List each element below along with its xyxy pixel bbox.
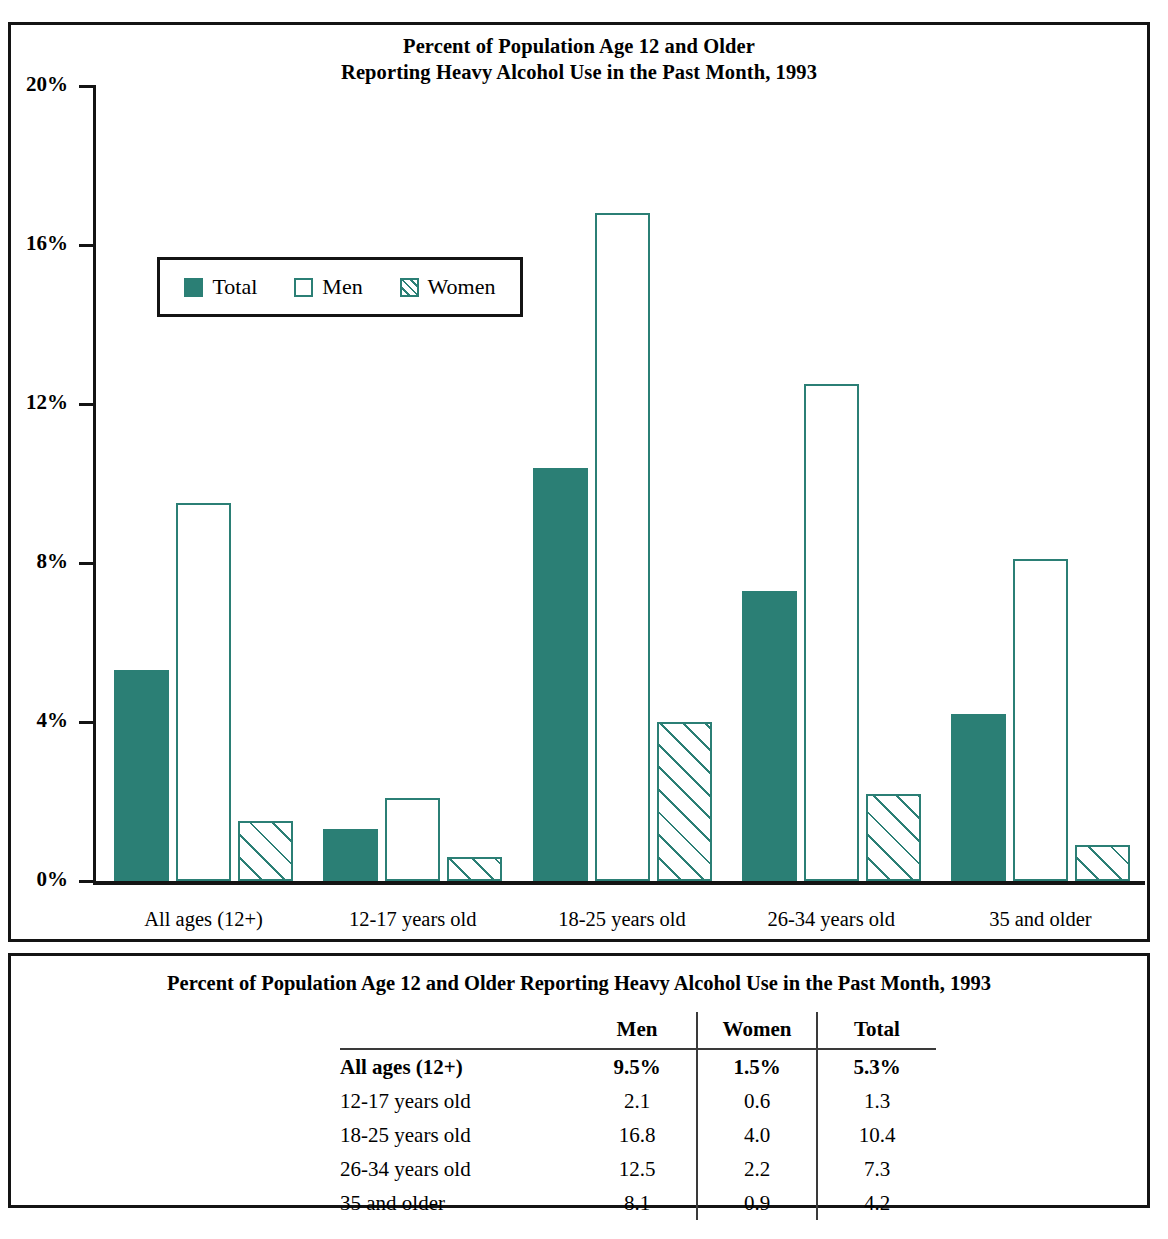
table-title: Percent of Population Age 12 and Older R…	[11, 972, 1147, 995]
table-cell-men: 16.8	[578, 1118, 697, 1152]
table-cell-label: 12-17 years old	[340, 1084, 578, 1118]
category-label-3: 26-34 years old	[727, 908, 936, 931]
y-tick-16%: 16%	[79, 244, 96, 247]
bar-men-4	[1013, 559, 1068, 881]
table-cell-women: 1.5%	[697, 1049, 817, 1084]
bar-men-0	[176, 503, 231, 881]
table-panel: Percent of Population Age 12 and Older R…	[8, 953, 1150, 1208]
category-label-0: All ages (12+)	[99, 908, 308, 931]
table-cell-men: 2.1	[578, 1084, 697, 1118]
table-cell-label: 35 and older	[340, 1186, 578, 1220]
bar-total-1	[323, 829, 378, 881]
table-cell-women: 0.6	[697, 1084, 817, 1118]
table-row: 35 and older8.10.94.2	[340, 1186, 936, 1220]
bar-total-4	[951, 714, 1006, 881]
table-cell-total: 1.3	[817, 1084, 936, 1118]
bar-men-1	[385, 798, 440, 881]
x-axis-line	[93, 881, 1145, 885]
table-row: 18-25 years old16.84.010.4	[340, 1118, 936, 1152]
table-header-row: Men Women Total	[340, 1012, 936, 1049]
bar-men-3	[804, 384, 859, 881]
y-tick-label-8%: 8%	[37, 549, 69, 574]
table-row: 26-34 years old12.52.27.3	[340, 1152, 936, 1186]
chart-page: Percent of Population Age 12 and Older R…	[0, 0, 1168, 1239]
y-tick-12%: 12%	[79, 403, 96, 406]
bar-women-3	[866, 794, 921, 881]
table-header-rowlabel	[340, 1012, 578, 1049]
table-cell-men: 9.5%	[578, 1049, 697, 1084]
table-header: Men Women Total	[340, 1012, 936, 1049]
table-cell-label: All ages (12+)	[340, 1049, 578, 1084]
chart-title-line-2: Reporting Heavy Alcohol Use in the Past …	[11, 59, 1147, 85]
bar-women-2	[657, 722, 712, 881]
chart-title-line-1: Percent of Population Age 12 and Older	[11, 33, 1147, 59]
table-cell-women: 4.0	[697, 1118, 817, 1152]
table-cell-women: 2.2	[697, 1152, 817, 1186]
bar-total-2	[533, 468, 588, 881]
chart-title: Percent of Population Age 12 and Older R…	[11, 33, 1147, 85]
table-cell-total: 4.2	[817, 1186, 936, 1220]
y-axis-line	[93, 86, 96, 881]
table-header-men: Men	[578, 1012, 697, 1049]
bar-total-3	[742, 591, 797, 881]
table-cell-label: 26-34 years old	[340, 1152, 578, 1186]
y-tick-label-16%: 16%	[26, 231, 68, 256]
y-tick-20%: 20%	[79, 85, 96, 88]
table-cell-men: 12.5	[578, 1152, 697, 1186]
bar-women-0	[238, 821, 293, 881]
y-tick-4%: 4%	[79, 721, 96, 724]
y-tick-0%: 0%	[79, 880, 96, 883]
table-cell-total: 7.3	[817, 1152, 936, 1186]
category-label-2: 18-25 years old	[517, 908, 726, 931]
y-tick-label-12%: 12%	[26, 390, 68, 415]
y-tick-label-20%: 20%	[26, 72, 68, 97]
bar-women-4	[1075, 845, 1130, 881]
table-row: 12-17 years old2.10.61.3	[340, 1084, 936, 1118]
y-tick-label-4%: 4%	[37, 708, 69, 733]
bar-women-1	[447, 857, 502, 881]
y-tick-8%: 8%	[79, 562, 96, 565]
table-cell-total: 5.3%	[817, 1049, 936, 1084]
table-cell-label: 18-25 years old	[340, 1118, 578, 1152]
category-label-4: 35 and older	[936, 908, 1145, 931]
chart-panel: Percent of Population Age 12 and Older R…	[8, 22, 1150, 942]
y-tick-label-0%: 0%	[37, 867, 69, 892]
table-header-women: Women	[697, 1012, 817, 1049]
table-cell-women: 0.9	[697, 1186, 817, 1220]
bar-total-0	[114, 670, 169, 881]
table-header-total: Total	[817, 1012, 936, 1049]
table-cell-total: 10.4	[817, 1118, 936, 1152]
category-label-1: 12-17 years old	[308, 908, 517, 931]
plot-area: 0%4%8%12%16%20% All ages (12+)12-17 year…	[93, 86, 1143, 881]
bar-men-2	[595, 213, 650, 881]
table-row: All ages (12+)9.5%1.5%5.3%	[340, 1049, 936, 1084]
table-cell-men: 8.1	[578, 1186, 697, 1220]
table-body: All ages (12+)9.5%1.5%5.3%12-17 years ol…	[340, 1049, 936, 1220]
data-table: Men Women Total All ages (12+)9.5%1.5%5.…	[340, 1012, 936, 1220]
